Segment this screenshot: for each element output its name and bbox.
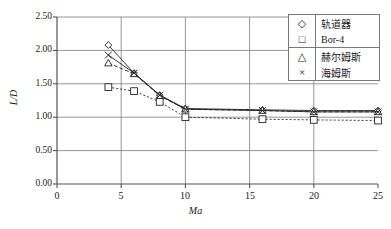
triangle-icon: △ — [289, 48, 316, 64]
legend-item-label: Bor-4 — [316, 34, 344, 45]
legend-item[interactable]: × 海姆斯 — [289, 64, 379, 80]
legend: ◇ 轨道器 □ Bor-4 △ 赫尔姆斯 × 海姆斯 — [288, 14, 380, 81]
legend-item-label: 赫尔姆斯 — [316, 49, 361, 64]
diamond-icon: ◇ — [289, 15, 316, 31]
legend-item[interactable]: □ Bor-4 — [289, 31, 379, 47]
legend-item[interactable]: △ 赫尔姆斯 — [289, 48, 379, 64]
legend-item-label: 海姆斯 — [316, 65, 351, 80]
chart-figure: L/D Ma 2.50 2.00 1.50 1.00 0.50 0.00 0 5… — [0, 0, 391, 229]
legend-item[interactable]: ◇ 轨道器 — [289, 15, 379, 31]
legend-item-label: 轨道器 — [316, 16, 351, 31]
cross-icon: × — [289, 64, 316, 80]
square-icon: □ — [289, 31, 316, 47]
